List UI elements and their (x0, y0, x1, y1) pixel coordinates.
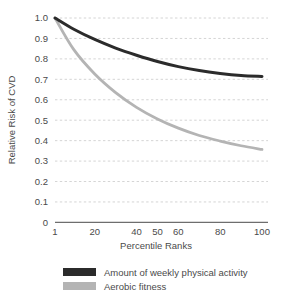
x-axis-tick-labels: 12040506080100 (52, 226, 270, 237)
y-axis-tick-labels: 00.10.20.30.40.50.60.70.80.91.0 (35, 12, 48, 227)
chart-figure: 00.10.20.30.40.50.60.70.80.91.0 12040506… (0, 0, 283, 303)
y-tick-label: 0.5 (35, 115, 48, 126)
y-tick-label: 0 (43, 217, 48, 228)
y-tick-label: 0.3 (35, 155, 48, 166)
x-tick-label: 60 (173, 226, 184, 237)
plot-series (55, 18, 262, 149)
y-tick-label: 0.7 (35, 74, 48, 85)
x-tick-label: 20 (89, 226, 100, 237)
x-tick-label: 1 (52, 226, 57, 237)
legend-swatch (63, 282, 96, 290)
y-tick-label: 0.9 (35, 33, 48, 44)
x-tick-label: 100 (254, 226, 270, 237)
series-line (55, 18, 262, 149)
y-tick-label: 0.1 (35, 196, 48, 207)
chart-svg: 00.10.20.30.40.50.60.70.80.91.0 12040506… (0, 0, 283, 303)
y-tick-label: 0.2 (35, 176, 48, 187)
y-tick-label: 0.8 (35, 53, 48, 64)
y-tick-label: 0.6 (35, 94, 48, 105)
chart-legend: Amount of weekly physical activityAerobi… (63, 267, 248, 292)
x-axis-title: Percentile Ranks (120, 240, 192, 251)
x-tick-label: 50 (152, 226, 163, 237)
series-line (55, 18, 262, 76)
x-tick-label: 40 (131, 226, 142, 237)
y-axis-title: Relative Risk of CVD (6, 76, 17, 165)
y-tick-label: 1.0 (35, 12, 48, 23)
y-tick-label: 0.4 (35, 135, 48, 146)
legend-label: Aerobic fitness (104, 281, 167, 292)
legend-label: Amount of weekly physical activity (104, 267, 248, 278)
x-tick-label: 80 (215, 226, 226, 237)
y-axis-gridlines (55, 18, 268, 202)
legend-swatch (63, 268, 96, 276)
